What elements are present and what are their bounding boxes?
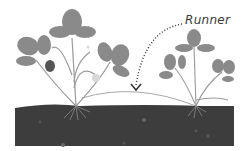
runner-stem [82,92,196,106]
flower-bud-icon [87,46,90,49]
leaf [212,59,224,73]
soil-speck [39,121,42,124]
leaf [175,44,193,52]
leaf [164,54,176,70]
leaf [187,29,201,47]
leaf [178,55,186,69]
leaf [108,42,132,69]
soil [15,104,234,146]
leaf [159,71,173,79]
leaf [197,44,215,52]
leaf [49,26,71,38]
leaf [16,56,36,66]
soil-speck [123,142,126,145]
flower-icon [92,74,100,82]
soil-speck [61,143,65,147]
leaf [37,35,51,55]
daughter-plant [159,29,235,118]
parent-plant [15,9,133,120]
soil-speck [206,134,210,138]
leaf [223,60,235,74]
pointer-arrow [136,24,182,85]
strawberry-icon [45,60,55,72]
leaf [74,26,96,38]
runner-label: Runner [185,13,230,27]
soil-speck [142,118,146,122]
leaf [222,76,234,82]
soil-speck [195,130,198,133]
